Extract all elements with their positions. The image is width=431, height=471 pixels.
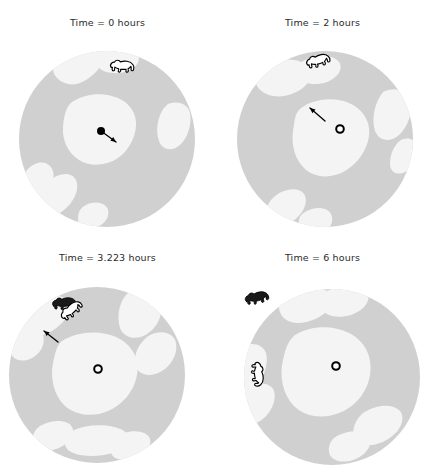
center-marker-ring — [94, 365, 102, 373]
bear-black-6h — [244, 289, 270, 306]
center-marker — [94, 365, 102, 373]
map-panel-panel-3223h: Time = 3.223 hours — [0, 235, 215, 470]
figure-canvas: Time = 0 hoursTime = 2 hoursTime = 3.223… — [0, 0, 431, 471]
center-marker — [97, 127, 105, 135]
center-marker-ring — [336, 125, 344, 133]
sea-ice-map — [215, 235, 430, 470]
sea-ice-map — [0, 235, 215, 470]
center-marker-ring — [332, 362, 340, 370]
sea-ice-map — [215, 0, 430, 235]
map-panel-panel-6h: Time = 6 hours — [215, 235, 430, 470]
center-marker — [332, 362, 340, 370]
center-marker — [336, 125, 344, 133]
bear-icon — [244, 289, 270, 306]
map-panel-panel-0h: Time = 0 hours — [0, 0, 215, 235]
map-panel-panel-2h: Time = 2 hours — [215, 0, 430, 235]
center-marker-dot — [97, 127, 105, 135]
sea-ice-map — [0, 0, 215, 235]
